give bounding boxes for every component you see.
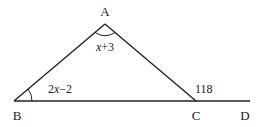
side-ac [105,24,196,101]
point-label-c: C [192,108,201,123]
point-label-d: D [240,108,249,123]
angle-a-op: +3 [101,40,114,54]
angle-arc-b [28,89,32,101]
angle-label-a: x+3 [95,40,114,54]
point-label-b: B [13,108,22,123]
angle-arc-a [95,33,115,36]
point-label-a: A [100,4,110,19]
angle-b-op: −2 [59,82,72,96]
angle-label-b: 2x−2 [48,82,72,96]
angle-label-c-exterior: 118 [195,82,213,96]
triangle-diagram: A B C D x+3 2x−2 118 [0,0,262,127]
